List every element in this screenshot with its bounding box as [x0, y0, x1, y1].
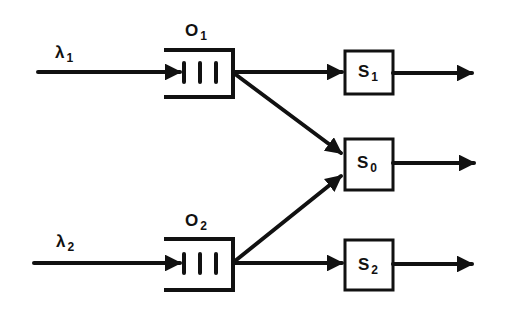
label-subscript: 1: [371, 70, 378, 84]
label-server2: S2: [358, 256, 378, 276]
label-symbol: S: [358, 62, 369, 81]
label-queue2: O2: [185, 212, 207, 232]
label-queue1: O1: [185, 22, 207, 42]
label-subscript: 0: [370, 161, 377, 175]
label-server0: S0: [357, 154, 377, 174]
label-server1: S1: [358, 63, 378, 83]
label-symbol: S: [357, 153, 368, 172]
queueing-network-diagram: [0, 0, 509, 319]
label-symbol: O: [185, 21, 198, 40]
edge-queue2-server0: [235, 176, 341, 261]
label-lambda2: λ2: [56, 233, 74, 253]
label-subscript: 1: [200, 29, 207, 43]
label-subscript: 2: [67, 240, 74, 254]
label-subscript: 2: [371, 263, 378, 277]
edge-queue1-server0: [235, 74, 341, 153]
label-subscript: 1: [66, 51, 73, 65]
label-subscript: 2: [200, 219, 207, 233]
label-lambda1: λ1: [55, 44, 73, 64]
label-symbol: O: [185, 211, 198, 230]
label-symbol: λ: [56, 232, 65, 251]
label-symbol: S: [358, 255, 369, 274]
label-symbol: λ: [55, 43, 64, 62]
